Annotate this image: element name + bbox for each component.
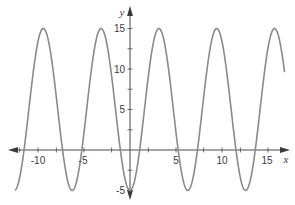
- y-tick-label: 15: [114, 23, 126, 34]
- x-tick-label: 10: [216, 155, 228, 166]
- y-tick-label: 10: [114, 64, 126, 75]
- x-tick-label: 15: [261, 155, 273, 166]
- sine-chart: -10 -5 5 10 15 15 10 5 -5 x y: [0, 0, 295, 205]
- x-axis-label: x: [283, 153, 289, 165]
- x-tick-label: 5: [173, 155, 179, 166]
- y-axis-up-arrow-icon: [127, 6, 133, 16]
- y-axis-label: y: [119, 6, 125, 18]
- x-tick-label: -10: [31, 155, 46, 166]
- y-tick-label: 5: [119, 104, 125, 115]
- y-axis-down-arrow-icon: [127, 190, 133, 200]
- x-tick-label: -5: [79, 155, 88, 166]
- x-axis-left-arrow-icon: [8, 147, 18, 153]
- function-curve: [15, 29, 285, 191]
- y-tick-label: -5: [116, 185, 125, 196]
- axes: [8, 6, 290, 200]
